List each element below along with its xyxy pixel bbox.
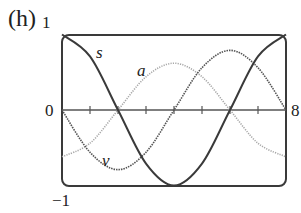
- curve-label-a: a: [137, 62, 146, 79]
- curve-label-v: v: [102, 152, 110, 169]
- x-end-label: 8: [291, 102, 300, 119]
- y-bottom-label: −1: [52, 192, 70, 209]
- y-zero-label: 0: [45, 102, 54, 119]
- curve-label-s: s: [96, 44, 103, 61]
- panel-label: (h): [8, 6, 36, 30]
- y-top-label: 1: [42, 14, 51, 31]
